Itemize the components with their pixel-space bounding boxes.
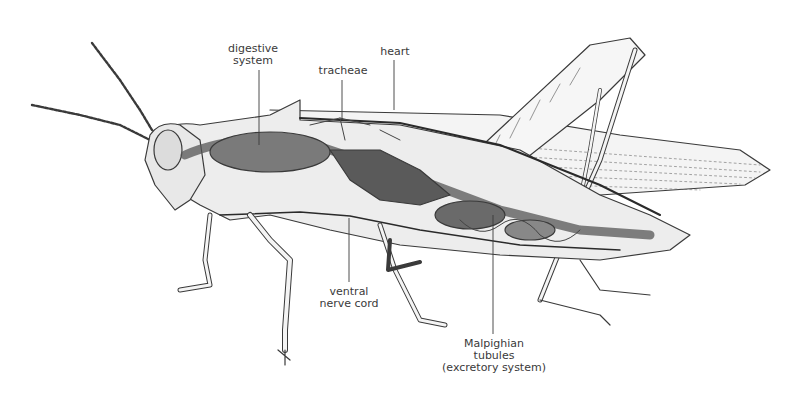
label-line: (excretory system) — [442, 362, 546, 374]
label-line: heart — [380, 46, 409, 58]
label-heart: heart — [380, 46, 409, 58]
rectum — [505, 220, 555, 240]
grasshopper-anatomy-diagram: digestive system tracheae heart ventral … — [0, 0, 808, 404]
hind-foot-right — [580, 260, 650, 295]
antenna-lower — [32, 105, 150, 140]
label-tracheae: tracheae — [319, 65, 368, 77]
compound-eye — [154, 130, 182, 170]
hindgut — [435, 201, 505, 229]
label-line: tracheae — [319, 65, 368, 77]
label-digestive-system: digestive system — [228, 43, 278, 67]
grasshopper-illustration — [0, 0, 808, 404]
crop — [210, 132, 330, 172]
label-line: system — [228, 55, 278, 67]
label-ventral-nerve-cord: ventral nerve cord — [319, 286, 378, 310]
label-malpighian-tubules: Malpighian tubules (excretory system) — [442, 338, 546, 374]
label-line: nerve cord — [319, 298, 378, 310]
antenna-upper — [92, 43, 152, 130]
hind-tarsus — [540, 300, 610, 325]
